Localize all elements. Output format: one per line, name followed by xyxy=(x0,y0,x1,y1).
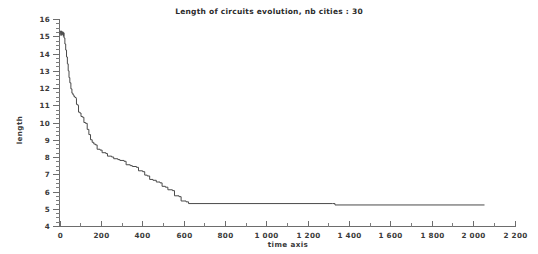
y-tick-label-8: 8 xyxy=(45,153,50,162)
y-axis-tick-labels: 45678910111213141516 xyxy=(39,15,50,231)
x-tick-label-1200: 1 200 xyxy=(296,231,320,240)
y-tick-label-15: 15 xyxy=(39,32,50,41)
y-axis-group: 45678910111213141516 length xyxy=(15,15,60,231)
x-tick-label-200: 200 xyxy=(94,231,110,240)
x-tick-label-800: 800 xyxy=(218,231,234,240)
y-axis-title: length xyxy=(15,116,24,145)
y-tick-label-12: 12 xyxy=(39,84,50,93)
y-tick-label-4: 4 xyxy=(45,222,50,231)
y-tick-label-7: 7 xyxy=(45,170,50,179)
chart-container: Length of circuits evolution, nb cities … xyxy=(0,0,538,254)
x-tick-label-400: 400 xyxy=(135,231,151,240)
y-tick-label-14: 14 xyxy=(39,50,50,59)
series-line-circuit-length xyxy=(60,31,485,205)
y-tick-label-11: 11 xyxy=(39,101,50,110)
y-tick-label-9: 9 xyxy=(45,136,50,145)
x-axis-group: 02004006008001 0001 2001 4001 6001 8002 … xyxy=(58,221,528,249)
x-tick-label-1000: 1 000 xyxy=(254,231,278,240)
x-tick-label-0: 0 xyxy=(58,231,63,240)
y-tick-label-6: 6 xyxy=(45,188,50,197)
chart-plot: 45678910111213141516 length 020040060080… xyxy=(0,0,538,254)
x-tick-label-1400: 1 400 xyxy=(337,231,361,240)
x-tick-label-1600: 1 600 xyxy=(378,231,402,240)
y-tick-label-10: 10 xyxy=(39,119,50,128)
x-tick-label-2200: 2 200 xyxy=(503,231,527,240)
x-tick-label-1800: 1 800 xyxy=(420,231,444,240)
y-tick-label-5: 5 xyxy=(45,205,50,214)
x-axis-tick-labels: 02004006008001 0001 2001 4001 6001 8002 … xyxy=(58,231,528,240)
series-group xyxy=(60,31,485,205)
y-tick-label-16: 16 xyxy=(39,15,50,24)
y-tick-label-13: 13 xyxy=(39,67,50,76)
x-axis-title: time axis xyxy=(268,240,309,249)
y-axis-major-ticks xyxy=(53,20,60,227)
x-tick-label-600: 600 xyxy=(177,231,193,240)
x-tick-label-2000: 2 000 xyxy=(461,231,485,240)
